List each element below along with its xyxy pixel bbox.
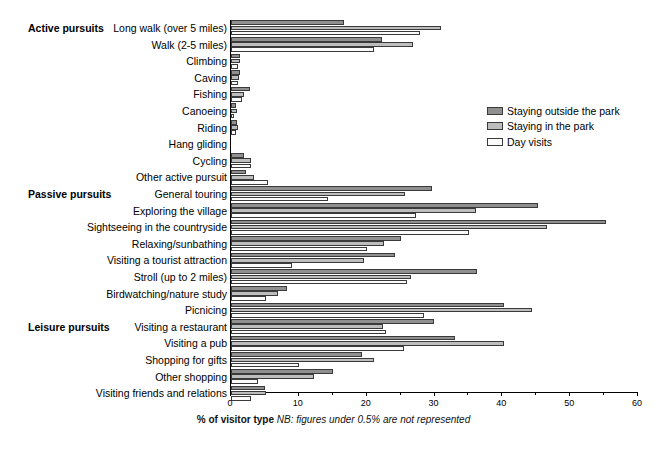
category-label: Shopping for gifts <box>145 355 227 365</box>
bar-series-1 <box>231 291 278 296</box>
category-label: Sightseeing in the countryside <box>87 222 227 232</box>
bar-series-0 <box>231 120 237 125</box>
bar-series-2 <box>231 31 420 36</box>
bar-series-1 <box>231 258 364 263</box>
bar-group <box>231 319 640 336</box>
bar-series-0 <box>231 37 382 42</box>
bar-series-1 <box>231 75 239 80</box>
bar-series-1 <box>231 275 411 280</box>
legend-label-series-0: Staying outside the park <box>507 105 620 117</box>
category-label: Relaxing/sunbathing <box>132 239 227 249</box>
bar-series-2 <box>231 197 328 202</box>
x-axis-title: % of visitor type NB: figures under 0.5%… <box>0 414 667 425</box>
bar-group <box>231 169 640 186</box>
bar-series-0 <box>231 336 455 341</box>
bar-group <box>231 369 640 386</box>
bar-series-2 <box>231 263 292 268</box>
bar-series-2 <box>231 296 266 301</box>
legend-swatch-series-2 <box>487 138 503 146</box>
bar-series-2 <box>231 47 374 52</box>
legend: Staying outside the park Staying in the … <box>487 104 620 151</box>
bar-group <box>231 385 640 402</box>
bar-series-1 <box>231 59 240 64</box>
bar-group <box>231 286 640 303</box>
bar-series-2 <box>231 64 238 69</box>
category-label: Climbing <box>186 56 227 66</box>
bar-series-2 <box>231 81 238 86</box>
bar-series-1 <box>231 308 532 313</box>
bar-series-0 <box>231 203 538 208</box>
bar-group <box>231 186 640 203</box>
bar-series-2 <box>231 164 251 169</box>
bar-series-1 <box>231 225 547 230</box>
bar-series-1 <box>231 358 374 363</box>
bar-series-0 <box>231 303 504 308</box>
bar-group <box>231 252 640 269</box>
bar-series-2 <box>231 330 386 335</box>
bar-series-1 <box>231 125 238 130</box>
category-label: Visiting a pub <box>164 338 227 348</box>
legend-item-staying-in-the-park: Staying in the park <box>487 120 620 133</box>
category-label: Birdwatching/nature study <box>106 289 227 299</box>
legend-item-day-visits: Day visits <box>487 135 620 148</box>
bar-series-0 <box>231 352 362 357</box>
bar-series-2 <box>231 396 251 401</box>
bar-series-2 <box>231 180 268 185</box>
bar-series-0 <box>231 103 236 108</box>
category-label: Visiting a restaurant <box>134 322 227 332</box>
legend-label-series-2: Day visits <box>507 136 552 148</box>
bar-series-0 <box>231 286 287 291</box>
bar-series-2 <box>231 346 404 351</box>
legend-swatch-series-0 <box>487 107 503 115</box>
bar-series-1 <box>231 92 244 97</box>
bar-group <box>231 352 640 369</box>
category-label: Visiting a tourist attraction <box>107 255 227 265</box>
category-label: Walk (2-5 miles) <box>152 40 227 50</box>
legend-item-staying-outside-the-park: Staying outside the park <box>487 104 620 117</box>
group-label: Passive pursuits <box>28 189 111 199</box>
bar-group <box>231 153 640 170</box>
bar-group <box>231 269 640 286</box>
bar-group <box>231 37 640 54</box>
bar-group <box>231 335 640 352</box>
bar-series-1 <box>231 192 405 197</box>
bar-group <box>231 219 640 236</box>
category-label: Other shopping <box>155 372 227 382</box>
category-label: Stroll (up to 2 miles) <box>134 272 227 282</box>
bar-series-0 <box>231 236 401 241</box>
category-label: Caving <box>194 73 227 83</box>
bar-series-2 <box>231 130 236 135</box>
category-label: General touring <box>155 189 227 199</box>
group-label: Active pursuits <box>28 23 104 33</box>
category-label: Visiting friends and relations <box>96 388 227 398</box>
category-label: Other active pursuit <box>136 172 227 182</box>
bar-series-1 <box>231 324 383 329</box>
bar-series-1 <box>231 26 441 31</box>
category-label: Long walk (over 5 miles) <box>113 23 227 33</box>
bar-series-0 <box>231 253 395 258</box>
category-label: Riding <box>197 123 227 133</box>
bar-series-0 <box>231 319 434 324</box>
group-label: Leisure pursuits <box>28 322 110 332</box>
plot-area: 0102030405060 <box>230 20 640 392</box>
bar-series-0 <box>231 386 265 391</box>
bar-series-1 <box>231 158 251 163</box>
bar-group <box>231 53 640 70</box>
bar-series-2 <box>231 230 469 235</box>
bar-chart: 0102030405060 Long walk (over 5 miles)Wa… <box>0 0 667 450</box>
bar-series-0 <box>231 170 246 175</box>
category-label: Picnicing <box>185 305 227 315</box>
x-axis-title-main: % of visitor type <box>197 414 274 425</box>
bar-series-0 <box>231 269 477 274</box>
bar-series-0 <box>231 186 432 191</box>
bar-series-2 <box>231 247 367 252</box>
bar-series-0 <box>231 87 250 92</box>
category-label: Fishing <box>193 89 227 99</box>
bar-series-1 <box>231 241 384 246</box>
bar-series-1 <box>231 374 314 379</box>
bar-series-2 <box>231 313 424 318</box>
bar-series-0 <box>231 153 244 158</box>
bar-series-0 <box>231 70 240 75</box>
bar-series-1 <box>231 175 254 180</box>
legend-label-series-1: Staying in the park <box>507 120 594 132</box>
